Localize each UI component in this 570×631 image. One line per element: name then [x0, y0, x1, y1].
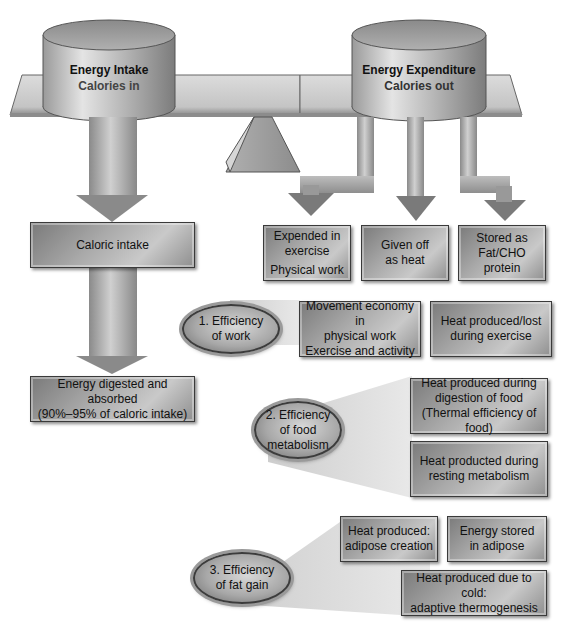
box-line: Movement economy in — [300, 299, 420, 329]
box-line: Heat produced: — [348, 524, 430, 539]
energy-intake-container: Energy Intake Calories in — [43, 62, 175, 102]
stored-as-fat-box: Stored as Fat/CHO protein — [458, 225, 546, 281]
energy-digested-box: Energy digested and absorbed (90%–95% of… — [30, 376, 195, 422]
efficiency-of-work-oval: 1. Efficiency of work — [182, 304, 280, 354]
box-line: during exercise — [450, 329, 531, 344]
energy-intake-subtitle: Calories in — [43, 78, 175, 94]
energy-expenditure-container: Energy Expenditure Calories out — [352, 62, 486, 102]
box-line: Exercise and activity — [305, 344, 414, 359]
heat-lost-during-exercise-box: Heat produced/lost during exercise — [430, 301, 552, 357]
output-line: protein — [484, 261, 521, 276]
expended-in-exercise-box: Expended in exercise Physical work — [263, 225, 351, 281]
output-line: Fat/CHO — [478, 246, 525, 261]
caloric-intake-box: Caloric intake — [30, 222, 195, 268]
box-line: adaptive thermogenesis — [410, 601, 537, 616]
box-line: resting metabolism — [429, 469, 530, 484]
box-line: adipose creation — [345, 539, 433, 554]
caloric-intake-label: Caloric intake — [76, 238, 149, 253]
energy-expenditure-title: Energy Expenditure — [352, 62, 486, 78]
energy-digested-line2: (90%–95% of caloric intake) — [38, 407, 187, 422]
oval-label: 2. Efficiency — [266, 408, 330, 423]
oval-label: 1. Efficiency — [199, 314, 263, 329]
output-line: Physical work — [270, 263, 343, 278]
box-line: Heat produced during — [421, 376, 536, 391]
oval-label: of food — [280, 423, 317, 438]
box-line: physical work — [324, 329, 396, 344]
box-line: (Thermal efficiency of food) — [411, 406, 547, 436]
efficiency-of-fat-gain-oval: 3. Efficiency of fat gain — [193, 552, 291, 604]
heat-resting-metabolism-box: Heat producted during resting metabolism — [410, 441, 548, 497]
box-line: digestion of food — [435, 391, 523, 406]
box-line: Heat producted during — [420, 454, 539, 469]
energy-digested-line1: Energy digested and absorbed — [31, 377, 194, 407]
output-line: Expended in — [274, 229, 341, 244]
heat-digestion-box: Heat produced during digestion of food (… — [410, 378, 548, 434]
energy-stored-adipose-box: Energy stored in adipose — [447, 516, 547, 562]
output-line: Given off — [381, 238, 429, 253]
movement-economy-box: Movement economy in physical work Exerci… — [299, 301, 421, 357]
heat-adipose-creation-box: Heat produced: adipose creation — [340, 516, 438, 562]
heat-adaptive-thermogenesis-box: Heat produced due to cold: adaptive ther… — [401, 570, 547, 616]
box-line: in adipose — [470, 539, 525, 554]
box-line: Energy stored — [460, 524, 535, 539]
output-line: exercise — [285, 244, 330, 259]
given-off-as-heat-box: Given off as heat — [361, 225, 449, 281]
oval-label: of work — [212, 329, 251, 344]
energy-expenditure-subtitle: Calories out — [352, 78, 486, 94]
output-line: as heat — [385, 253, 424, 268]
energy-intake-title: Energy Intake — [43, 62, 175, 78]
oval-label: of fat gain — [216, 578, 269, 593]
efficiency-of-food-metabolism-oval: 2. Efficiency of food metabolism — [254, 401, 342, 459]
output-line: Stored as — [476, 231, 527, 246]
oval-label: metabolism — [267, 438, 328, 453]
oval-label: 3. Efficiency — [210, 563, 274, 578]
box-line: Heat produced/lost — [441, 314, 542, 329]
box-line: Heat produced due to cold: — [402, 571, 546, 601]
